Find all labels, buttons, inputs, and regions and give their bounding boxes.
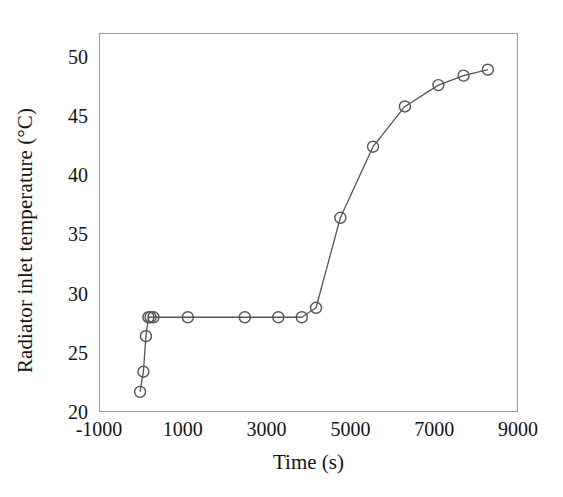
x-tick-label: 3000	[247, 418, 287, 440]
y-tick-label: 30	[0, 284, 88, 304]
y-tick-label: 50	[0, 47, 88, 67]
x-tick-label: 9000	[498, 418, 538, 440]
plot-area	[99, 33, 518, 412]
x-axis-title-text: Time (s)	[273, 450, 344, 474]
y-tick-label: 45	[0, 106, 88, 126]
x-tick-label: 5000	[330, 418, 370, 440]
x-axis-title: Time (s)	[99, 450, 518, 475]
x-tick-label: -1000	[76, 418, 123, 440]
y-tick-label: 35	[0, 224, 88, 244]
y-tick-label: 25	[0, 343, 88, 363]
x-tick-label: 1000	[163, 418, 203, 440]
chart-figure: Radiator inlet temperature (°C) 20253035…	[0, 0, 563, 497]
x-tick-label: 7000	[414, 418, 454, 440]
y-tick-label: 40	[0, 165, 88, 185]
